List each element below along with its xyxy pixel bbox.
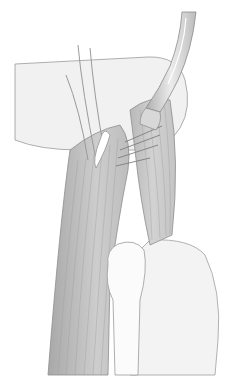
illustration-canvas	[0, 0, 241, 390]
anatomical-illustration	[0, 0, 241, 390]
